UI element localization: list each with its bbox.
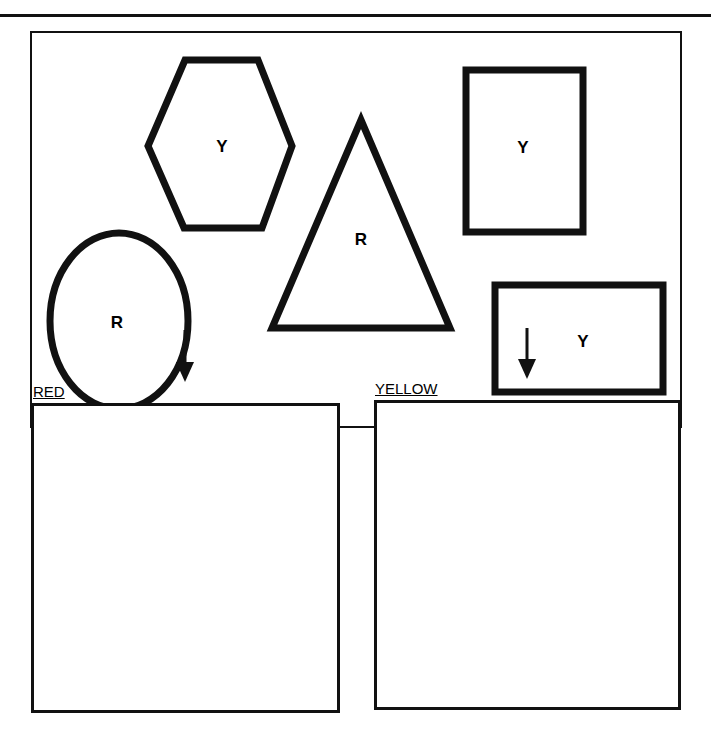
arrow-down-icon [176,330,194,382]
triangle-shape[interactable] [272,120,450,328]
bin-label-yellow: YELLOW [375,380,438,397]
circle-letter: R [111,313,123,332]
triangle-letter: R [355,230,367,249]
rectangle-letter: Y [577,332,589,351]
bin-label-red: RED [33,383,65,400]
square-letter: Y [517,138,529,157]
yellow-bin-box[interactable] [374,400,681,710]
hexagon-letter: Y [216,137,228,156]
arrow-down-icon [518,328,536,379]
red-bin-box[interactable] [31,403,340,713]
